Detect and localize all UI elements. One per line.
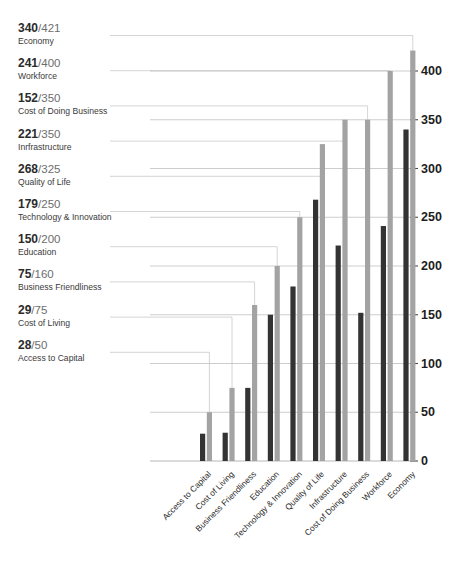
legend-total: 160 bbox=[35, 268, 54, 280]
legend-label: Technology & Innovation bbox=[18, 212, 198, 223]
x-tick-label: Cost of Living bbox=[193, 469, 236, 512]
legend-total: 250 bbox=[41, 198, 60, 210]
bar-total bbox=[252, 305, 257, 461]
bar-group bbox=[245, 305, 257, 461]
legend-ratio: 241/400 bbox=[18, 57, 198, 70]
bar-score bbox=[336, 246, 341, 461]
legend-total: 50 bbox=[35, 339, 48, 351]
legend-list: 340/421Economy241/400Workforce152/350Cos… bbox=[0, 0, 200, 360]
legend-ratio: 221/350 bbox=[18, 128, 198, 141]
bar-score bbox=[403, 130, 408, 462]
y-tick-label: 200 bbox=[421, 259, 442, 273]
bar-group bbox=[200, 412, 212, 461]
x-tick-label: Economy bbox=[385, 469, 417, 501]
legend-total: 350 bbox=[41, 128, 60, 140]
legend-item: 28/50Access to Capital bbox=[18, 339, 198, 364]
y-tick-label: 300 bbox=[421, 162, 442, 176]
bar-group bbox=[223, 388, 235, 461]
bar-score bbox=[200, 434, 205, 461]
x-tick-label: Technology & Innovation bbox=[232, 469, 304, 541]
legend-total: 325 bbox=[41, 163, 60, 175]
bar-group bbox=[336, 120, 348, 461]
y-tick-label: 400 bbox=[421, 64, 442, 78]
bar-group bbox=[313, 144, 325, 461]
legend-item: 152/350Cost of Doing Business bbox=[18, 92, 198, 117]
legend-score: 268 bbox=[18, 162, 38, 176]
legend-score: 150 bbox=[18, 232, 38, 246]
legend-score: 221 bbox=[18, 127, 38, 141]
legend-ratio: 179/250 bbox=[18, 198, 198, 211]
legend-ratio: 340/421 bbox=[18, 22, 198, 35]
legend-item: 268/325Quality of Life bbox=[18, 163, 198, 188]
chart-figure: 340/421Economy241/400Workforce152/350Cos… bbox=[0, 0, 462, 585]
legend-label: Economy bbox=[18, 36, 198, 47]
bar-total bbox=[275, 266, 280, 461]
legend-total: 75 bbox=[35, 304, 48, 316]
x-tick-label: Cost of Doing Business bbox=[303, 469, 372, 538]
bar-total bbox=[207, 412, 212, 461]
legend-ratio: 152/350 bbox=[18, 92, 198, 105]
legend-ratio: 268/325 bbox=[18, 163, 198, 176]
x-tick-label: Access to Capital bbox=[160, 469, 213, 522]
bar-group bbox=[358, 120, 370, 461]
bar-total bbox=[229, 388, 234, 461]
bar-group bbox=[290, 217, 302, 461]
legend-score: 28 bbox=[18, 338, 31, 352]
legend-item: 221/350Inrfrastructure bbox=[18, 128, 198, 153]
bar-score bbox=[313, 200, 318, 461]
x-tick-label: Infrastructure bbox=[307, 469, 349, 511]
bar-total bbox=[320, 144, 325, 461]
legend-label: Access to Capital bbox=[18, 353, 198, 364]
legend-item: 29/75Cost of Living bbox=[18, 304, 198, 329]
x-tick-label: Education bbox=[248, 469, 281, 502]
bar-group bbox=[403, 51, 415, 461]
bar-score bbox=[245, 388, 250, 461]
bar-total bbox=[365, 120, 370, 461]
bar-score bbox=[290, 286, 295, 461]
legend-label: Workforce bbox=[18, 71, 198, 82]
legend-item: 179/250Technology & Innovation bbox=[18, 198, 198, 223]
legend-label: Cost of Doing Business bbox=[18, 106, 198, 117]
legend-score: 29 bbox=[18, 303, 31, 317]
legend-score: 179 bbox=[18, 197, 38, 211]
y-tick-label: 350 bbox=[421, 113, 442, 127]
legend-item: 75/160Business Friendliness bbox=[18, 268, 198, 293]
legend-ratio: 150/200 bbox=[18, 233, 198, 246]
bar-score bbox=[268, 315, 273, 461]
legend-total: 350 bbox=[41, 92, 60, 104]
bar-group bbox=[268, 266, 280, 461]
legend-item: 241/400Workforce bbox=[18, 57, 198, 82]
legend-total: 400 bbox=[41, 57, 60, 69]
legend-item: 150/200Education bbox=[18, 233, 198, 258]
bar-group bbox=[381, 71, 393, 461]
bar-score bbox=[358, 313, 363, 461]
x-tick-label: Business Friendliness bbox=[194, 469, 259, 534]
legend-total: 200 bbox=[41, 233, 60, 245]
x-tick-label: Quality of Life bbox=[283, 469, 326, 512]
legend-label: Cost of Living bbox=[18, 318, 198, 329]
legend-label: Business Friendliness bbox=[18, 282, 198, 293]
legend-ratio: 75/160 bbox=[18, 268, 198, 281]
y-tick-label: 50 bbox=[421, 405, 435, 419]
bar-total bbox=[388, 71, 393, 461]
x-tick-label: Workforce bbox=[360, 469, 394, 503]
legend-total: 421 bbox=[41, 22, 60, 34]
bar-score bbox=[381, 226, 386, 461]
legend-score: 241 bbox=[18, 56, 38, 70]
y-tick-label: 150 bbox=[421, 308, 442, 322]
y-tick-label: 100 bbox=[421, 357, 442, 371]
legend-item: 340/421Economy bbox=[18, 22, 198, 47]
bar-total bbox=[410, 51, 415, 461]
legend-score: 75 bbox=[18, 267, 31, 281]
legend-label: Inrfrastructure bbox=[18, 142, 198, 153]
legend-score: 340 bbox=[18, 21, 38, 35]
legend-ratio: 28/50 bbox=[18, 339, 198, 352]
legend-score: 152 bbox=[18, 91, 38, 105]
legend-label: Quality of Life bbox=[18, 177, 198, 188]
bar-total bbox=[342, 120, 347, 461]
legend-label: Education bbox=[18, 247, 198, 258]
bar-score bbox=[223, 433, 228, 461]
y-tick-label: 0 bbox=[421, 454, 428, 468]
bar-total bbox=[297, 217, 302, 461]
y-tick-label: 250 bbox=[421, 210, 442, 224]
